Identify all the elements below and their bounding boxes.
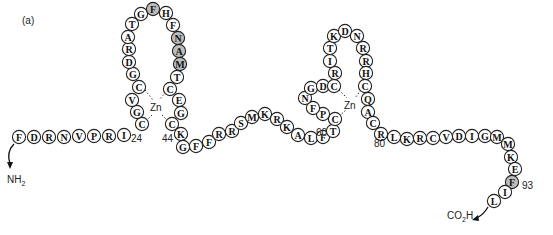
svg-text:L: L (391, 132, 398, 143)
residue-32: F (189, 139, 202, 152)
svg-text:I: I (503, 187, 507, 198)
residue-41: A (291, 128, 304, 141)
residue-15: R (122, 42, 135, 55)
residue-38: K (258, 107, 271, 120)
svg-text:V: V (75, 131, 83, 142)
svg-text:V: V (442, 132, 450, 143)
svg-text:F: F (206, 137, 212, 148)
svg-text:K: K (283, 122, 291, 133)
residue-9: C (135, 117, 148, 130)
residue-27: E (172, 93, 185, 106)
svg-text:K: K (403, 134, 411, 145)
residue-18: G (134, 7, 147, 20)
residue-60: H (359, 66, 372, 79)
svg-text:T: T (174, 72, 181, 83)
svg-text:R: R (45, 132, 53, 143)
residue-20: H (159, 6, 172, 19)
svg-text:L: L (308, 133, 315, 144)
residue-1: F (12, 130, 25, 143)
residue-58: R (356, 41, 369, 54)
svg-text:M: M (247, 112, 257, 123)
residue-16: A (121, 30, 134, 43)
residue-72: I (465, 129, 478, 142)
svg-text:A: A (175, 46, 183, 57)
protein-sequence-diagram: (a) Zn Zn FDRNVPRICGVCGDRATGFHFNAMTCEGCK… (0, 0, 553, 235)
svg-text:Q: Q (364, 94, 372, 105)
residue-80: L (487, 194, 500, 207)
residue-8: I (117, 128, 130, 141)
residue-56: D (338, 24, 351, 37)
residue-34: R (212, 127, 225, 140)
svg-text:D: D (455, 131, 462, 142)
svg-text:R: R (228, 126, 236, 137)
residue-chain: FDRNVPRICGVCGDRATGFHFNAMTCEGCKGFFRRSMKRK… (12, 2, 521, 207)
svg-text:N: N (174, 33, 182, 44)
residue-6: P (87, 129, 100, 142)
residue-2: D (27, 130, 40, 143)
svg-text:N: N (60, 132, 68, 143)
svg-text:D: D (125, 57, 132, 68)
svg-text:T: T (330, 126, 337, 137)
residue-26: C (163, 82, 176, 95)
svg-text:G: G (307, 83, 315, 94)
residue-61: C (358, 79, 371, 92)
svg-text:E: E (512, 164, 519, 175)
residue-77: E (508, 162, 521, 175)
svg-text:C: C (168, 119, 175, 130)
svg-text:A: A (124, 32, 132, 43)
residue-22: N (171, 31, 184, 44)
residue-59: R (359, 54, 372, 67)
residue-40: K (280, 120, 293, 133)
residue-54: T (323, 41, 336, 54)
svg-text:R: R (416, 133, 424, 144)
svg-text:N: N (301, 93, 309, 104)
svg-text:K: K (507, 152, 515, 163)
residue-5: V (72, 129, 85, 142)
svg-text:N: N (353, 31, 361, 42)
residue-52: R (328, 66, 341, 79)
svg-text:I: I (328, 56, 332, 67)
svg-text:M: M (175, 59, 185, 70)
residue-4: N (57, 130, 70, 143)
residue-51: C (327, 79, 340, 92)
residue-44: T (326, 124, 339, 137)
svg-text:H: H (162, 8, 170, 19)
svg-text:R: R (331, 68, 339, 79)
position-label: 44 (162, 133, 174, 144)
svg-text:H: H (362, 68, 370, 79)
n-terminus-label: NH2 (7, 174, 25, 187)
residue-79: I (498, 185, 511, 198)
svg-text:C: C (361, 81, 368, 92)
svg-text:R: R (359, 43, 367, 54)
residue-67: K (400, 132, 413, 145)
residue-14: D (122, 55, 135, 68)
svg-text:G: G (137, 9, 145, 20)
svg-text:G: G (179, 142, 187, 153)
svg-text:C: C (330, 81, 337, 92)
svg-text:F: F (310, 103, 316, 114)
svg-text:G: G (133, 107, 141, 118)
svg-text:C: C (331, 114, 338, 125)
svg-text:P: P (320, 109, 326, 120)
residue-11: V (125, 93, 138, 106)
residue-24: M (173, 57, 186, 70)
residue-57: N (350, 29, 363, 42)
residue-75: M (501, 137, 514, 150)
svg-text:G: G (177, 108, 185, 119)
position-label: 60 (316, 127, 328, 138)
svg-text:R: R (105, 131, 113, 142)
position-label: 24 (131, 133, 143, 144)
panel-label: (a) (22, 15, 34, 26)
residue-70: V (439, 130, 452, 143)
residue-62: Q (361, 92, 374, 105)
residue-64: C (366, 116, 379, 129)
svg-text:F: F (170, 20, 176, 31)
svg-text:F: F (16, 132, 22, 143)
svg-text:T: T (129, 19, 136, 30)
svg-text:M: M (492, 132, 502, 143)
svg-text:P: P (91, 131, 97, 142)
svg-text:G: G (129, 69, 137, 80)
residue-53: I (323, 54, 336, 67)
residue-21: F (166, 18, 179, 31)
svg-text:K: K (177, 129, 185, 140)
